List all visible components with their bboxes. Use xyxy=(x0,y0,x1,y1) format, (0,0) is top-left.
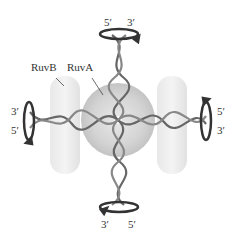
strand-end-top-right: 3′ xyxy=(127,17,135,28)
strand-end-top-left: 5′ xyxy=(104,17,112,28)
rotation-arrow-left xyxy=(24,102,34,144)
strand-end-bottom-right: 5′ xyxy=(128,219,136,230)
strand-end-bottom-left: 3′ xyxy=(101,219,109,230)
holliday-junction-diagram: RuvB RuvA 5′ 3′ 3′ 5′ 5′ 3′ 3′ 5′ xyxy=(0,0,235,238)
strand-end-left-top: 3′ xyxy=(11,106,19,117)
ruvb-label: RuvB xyxy=(31,62,57,73)
rotation-arrow-bottom xyxy=(100,202,138,214)
rotation-arrow-top xyxy=(100,29,139,42)
diagram-graphic xyxy=(0,0,235,238)
strand-end-right-top: 5′ xyxy=(217,106,225,117)
strand-end-right-bottom: 3′ xyxy=(217,125,225,136)
strand-end-left-bottom: 5′ xyxy=(11,125,19,136)
ruva-label: RuvA xyxy=(67,62,93,73)
ruvb-left-ring xyxy=(50,76,80,174)
